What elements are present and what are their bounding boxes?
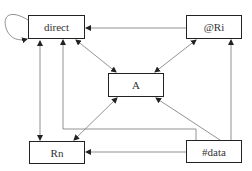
node-data-label: #data (202, 146, 226, 158)
node-a-label: A (132, 79, 140, 91)
edge-data-a (156, 98, 220, 140)
edge-ri-a (155, 40, 196, 72)
node-direct: direct (28, 15, 85, 39)
node-direct-label: direct (44, 21, 69, 33)
node-ri: @Ri (186, 15, 242, 39)
node-rn-label: Rn (51, 147, 64, 159)
node-data: #data (186, 140, 242, 163)
node-rn: Rn (29, 141, 85, 164)
edge-direct-self-loop (5, 14, 28, 39)
node-ri-label: @Ri (204, 21, 225, 33)
edge-direct-a (76, 40, 116, 72)
node-a: A (108, 73, 164, 97)
edge-a-rn (74, 98, 117, 140)
